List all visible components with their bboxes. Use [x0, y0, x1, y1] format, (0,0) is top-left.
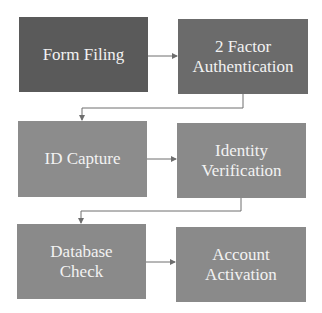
step-label: Account Activation [205, 245, 277, 285]
arrow-verification-to-database [81, 198, 241, 223]
step-2-factor-authentication: 2 Factor Authentication [178, 19, 308, 94]
step-database-check: Database Check [17, 224, 146, 299]
step-label: 2 Factor Authentication [192, 37, 293, 77]
arrow-2fa-to-id-capture [82, 94, 243, 120]
step-label: Database Check [50, 242, 112, 282]
step-identity-verification: Identity Verification [177, 123, 306, 198]
step-id-capture: ID Capture [18, 121, 147, 197]
step-account-activation: Account Activation [176, 227, 306, 302]
step-label: ID Capture [44, 149, 120, 169]
step-label: Identity Verification [201, 141, 281, 181]
step-label: Form Filing [43, 45, 125, 65]
step-form-filing: Form Filing [19, 17, 148, 92]
